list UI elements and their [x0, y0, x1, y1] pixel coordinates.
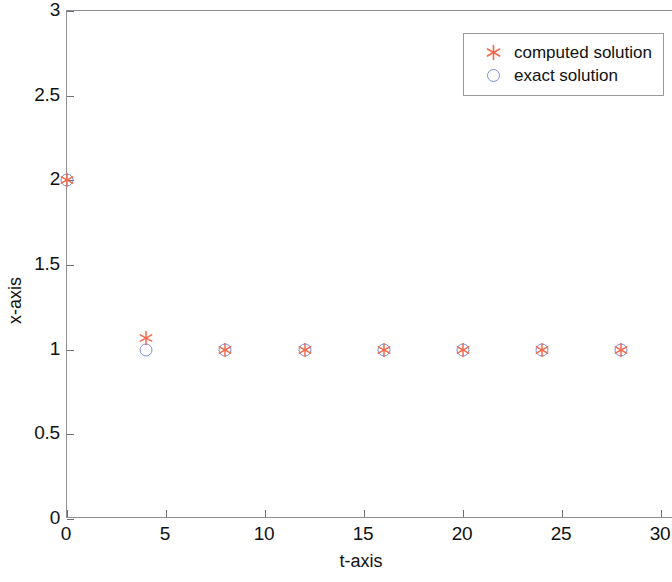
data-point-computed — [297, 342, 312, 357]
y-tick — [67, 434, 74, 435]
y-tick — [67, 11, 74, 12]
y-tick — [67, 265, 74, 266]
data-point-computed — [614, 342, 629, 357]
x-tick — [661, 510, 662, 517]
y-tick-label: 1 — [50, 338, 60, 360]
x-tick-label: 0 — [61, 523, 71, 545]
data-point-computed — [456, 342, 471, 357]
x-tick — [364, 510, 365, 517]
data-point-computed — [218, 342, 233, 357]
legend-entry-exact: exact solution — [472, 64, 655, 87]
x-tick-label: 5 — [160, 523, 170, 545]
y-tick — [67, 350, 74, 351]
x-tick-label: 25 — [551, 523, 572, 545]
x-axis-label: t-axis — [0, 551, 672, 572]
y-tick-label: 2 — [50, 168, 60, 190]
asterisk-icon — [472, 44, 514, 61]
y-tick-label: 2.5 — [34, 84, 60, 106]
data-point-computed — [376, 342, 391, 357]
x-tick-label: 20 — [452, 523, 473, 545]
y-axis-label: x-axis — [5, 256, 26, 346]
figure: x-axis t-axis computed solution — [0, 0, 672, 582]
data-point-computed — [139, 330, 154, 345]
x-tick — [67, 510, 68, 517]
legend-label-computed: computed solution — [514, 43, 652, 63]
x-tick — [562, 510, 563, 517]
y-tick-label: 0 — [50, 507, 60, 529]
y-tick-label: 3 — [50, 0, 60, 21]
data-point-computed — [535, 342, 550, 357]
y-tick — [67, 96, 74, 97]
x-tick-label: 10 — [254, 523, 275, 545]
circle-icon — [472, 69, 514, 82]
legend-label-exact: exact solution — [514, 66, 618, 86]
legend: computed solution exact solution — [463, 33, 664, 96]
data-point-computed — [60, 173, 75, 188]
y-tick-label: 0.5 — [34, 422, 60, 444]
x-tick-label: 15 — [353, 523, 374, 545]
x-tick — [265, 510, 266, 517]
x-axis-label-text: t-axis — [339, 551, 382, 571]
y-tick — [67, 519, 74, 520]
legend-entry-computed: computed solution — [472, 41, 655, 64]
x-tick — [463, 510, 464, 517]
x-tick-label: 30 — [650, 523, 671, 545]
x-tick — [166, 510, 167, 517]
y-tick-label: 1.5 — [34, 253, 60, 275]
